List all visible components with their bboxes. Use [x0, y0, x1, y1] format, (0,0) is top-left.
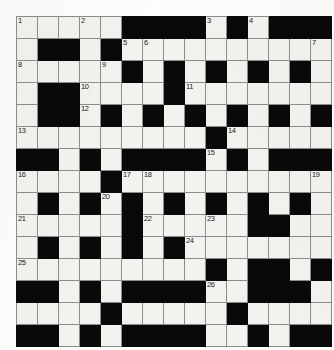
crossword-cell[interactable] [311, 193, 332, 215]
crossword-cell[interactable] [59, 237, 80, 259]
crossword-cell[interactable] [206, 105, 227, 127]
crossword-cell[interactable] [17, 39, 38, 61]
crossword-cell[interactable]: 24 [185, 237, 206, 259]
crossword-cell[interactable] [311, 281, 332, 303]
crossword-cell[interactable]: 1 [17, 17, 38, 39]
crossword-cell[interactable] [164, 303, 185, 325]
crossword-cell[interactable] [38, 171, 59, 193]
crossword-cell[interactable] [143, 237, 164, 259]
crossword-cell[interactable] [59, 17, 80, 39]
crossword-cell[interactable] [185, 215, 206, 237]
crossword-cell[interactable] [248, 171, 269, 193]
crossword-cell[interactable] [59, 171, 80, 193]
crossword-cell[interactable] [101, 259, 122, 281]
crossword-cell[interactable] [290, 127, 311, 149]
crossword-cell[interactable] [17, 105, 38, 127]
crossword-cell[interactable] [227, 171, 248, 193]
crossword-cell[interactable] [143, 303, 164, 325]
crossword-cell[interactable] [101, 281, 122, 303]
crossword-cell[interactable] [80, 171, 101, 193]
crossword-cell[interactable] [80, 259, 101, 281]
crossword-cell[interactable] [59, 193, 80, 215]
crossword-cell[interactable] [206, 303, 227, 325]
crossword-cell[interactable] [185, 259, 206, 281]
crossword-cell[interactable] [101, 17, 122, 39]
crossword-cell[interactable] [227, 61, 248, 83]
crossword-cell[interactable] [101, 325, 122, 347]
crossword-cell[interactable]: 8 [17, 61, 38, 83]
crossword-cell[interactable] [80, 303, 101, 325]
crossword-cell[interactable] [269, 39, 290, 61]
crossword-cell[interactable]: 5 [122, 39, 143, 61]
crossword-cell[interactable] [290, 215, 311, 237]
crossword-cell[interactable]: 9 [101, 61, 122, 83]
crossword-cell[interactable] [59, 149, 80, 171]
crossword-cell[interactable] [269, 61, 290, 83]
crossword-cell[interactable] [38, 17, 59, 39]
crossword-cell[interactable] [38, 303, 59, 325]
crossword-cell[interactable]: 18 [143, 171, 164, 193]
crossword-cell[interactable] [290, 237, 311, 259]
crossword-cell[interactable] [101, 83, 122, 105]
crossword-cell[interactable] [185, 127, 206, 149]
crossword-cell[interactable] [290, 171, 311, 193]
crossword-cell[interactable] [311, 61, 332, 83]
crossword-cell[interactable] [122, 83, 143, 105]
crossword-grid[interactable]: 1234567891011121314151617181920212223242… [16, 16, 332, 347]
crossword-cell[interactable]: 26 [206, 281, 227, 303]
crossword-cell[interactable] [143, 83, 164, 105]
crossword-cell[interactable] [290, 83, 311, 105]
crossword-cell[interactable] [248, 105, 269, 127]
crossword-cell[interactable] [185, 39, 206, 61]
crossword-cell[interactable] [38, 259, 59, 281]
crossword-cell[interactable] [101, 237, 122, 259]
crossword-cell[interactable] [206, 325, 227, 347]
crossword-cell[interactable] [227, 83, 248, 105]
crossword-cell[interactable] [290, 303, 311, 325]
crossword-cell[interactable]: 15 [206, 149, 227, 171]
crossword-cell[interactable]: 16 [17, 171, 38, 193]
crossword-cell[interactable]: 25 [17, 259, 38, 281]
crossword-cell[interactable] [227, 237, 248, 259]
crossword-cell[interactable] [101, 149, 122, 171]
crossword-cell[interactable] [164, 127, 185, 149]
crossword-cell[interactable] [290, 39, 311, 61]
crossword-cell[interactable] [227, 281, 248, 303]
crossword-cell[interactable] [185, 303, 206, 325]
crossword-cell[interactable] [227, 193, 248, 215]
crossword-cell[interactable] [80, 215, 101, 237]
crossword-cell[interactable] [269, 303, 290, 325]
crossword-cell[interactable] [38, 127, 59, 149]
crossword-cell[interactable] [80, 127, 101, 149]
crossword-cell[interactable] [59, 61, 80, 83]
crossword-cell[interactable] [185, 193, 206, 215]
crossword-cell[interactable] [206, 237, 227, 259]
crossword-cell[interactable] [122, 105, 143, 127]
crossword-cell[interactable]: 6 [143, 39, 164, 61]
crossword-cell[interactable] [248, 39, 269, 61]
crossword-cell[interactable]: 20 [101, 193, 122, 215]
crossword-cell[interactable]: 19 [311, 171, 332, 193]
crossword-cell[interactable] [101, 215, 122, 237]
crossword-cell[interactable] [311, 83, 332, 105]
crossword-cell[interactable] [143, 193, 164, 215]
crossword-cell[interactable]: 17 [122, 171, 143, 193]
crossword-grid-container[interactable]: 1234567891011121314151617181920212223242… [16, 16, 317, 331]
crossword-cell[interactable] [185, 171, 206, 193]
crossword-cell[interactable] [122, 303, 143, 325]
crossword-cell[interactable] [248, 83, 269, 105]
crossword-cell[interactable] [143, 259, 164, 281]
crossword-cell[interactable]: 14 [227, 127, 248, 149]
crossword-cell[interactable]: 11 [185, 83, 206, 105]
crossword-cell[interactable] [269, 171, 290, 193]
crossword-cell[interactable]: 10 [80, 83, 101, 105]
crossword-cell[interactable] [143, 61, 164, 83]
crossword-cell[interactable] [59, 215, 80, 237]
crossword-cell[interactable]: 3 [206, 17, 227, 39]
crossword-cell[interactable] [185, 61, 206, 83]
crossword-cell[interactable] [311, 127, 332, 149]
crossword-cell[interactable] [311, 237, 332, 259]
crossword-cell[interactable] [17, 303, 38, 325]
crossword-cell[interactable] [290, 105, 311, 127]
crossword-cell[interactable] [80, 39, 101, 61]
